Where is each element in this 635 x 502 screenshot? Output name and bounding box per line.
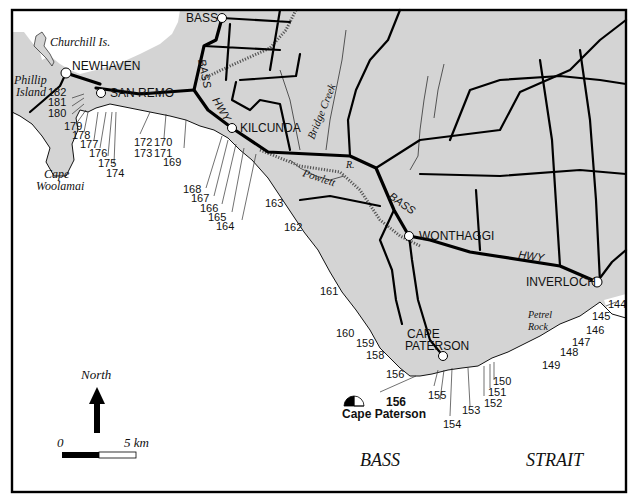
svg-text:173: 173 (134, 147, 152, 159)
svg-text:161: 161 (320, 285, 338, 297)
svg-text:153: 153 (462, 404, 480, 416)
feature-churchill-island: Churchill Is. (50, 35, 110, 49)
sea-label-strait: STRAIT (526, 450, 585, 470)
svg-text:149: 149 (542, 359, 560, 371)
svg-text:179: 179 (64, 120, 82, 132)
sea-label-bass: BASS (360, 450, 400, 470)
town-label-san-remo: SAN REMO (110, 86, 174, 100)
north-label: North (80, 367, 111, 382)
svg-text:171: 171 (154, 147, 172, 159)
svg-text:144: 144 (608, 298, 626, 310)
town-label-wonthaggi: WONTHAGGI (419, 229, 494, 243)
svg-text:148: 148 (560, 346, 578, 358)
town-label-kilcunda: KILCUNDA (240, 121, 301, 135)
svg-text:168: 168 (183, 183, 201, 195)
svg-text:152: 152 (484, 397, 502, 409)
town-label-bass: BASS (186, 11, 218, 25)
highlight-site-marker (344, 396, 364, 406)
svg-text:145: 145 (592, 310, 610, 322)
town-label-newhaven: NEWHAVEN (72, 59, 140, 73)
svg-text:146: 146 (586, 324, 604, 336)
map-canvas: BASS NEWHAVEN SAN REMO KILCUNDA WONTHAGG… (0, 0, 635, 502)
svg-text:160: 160 (336, 327, 354, 339)
north-arrow-icon (89, 387, 105, 433)
feature-island: Island (15, 85, 47, 99)
town-label-inverloch: INVERLOCH (526, 275, 596, 289)
feature-powlett-r: R. (345, 159, 355, 170)
feature-petrel: Petrel (527, 309, 552, 320)
svg-text:154: 154 (443, 418, 461, 430)
scale-start-label: 0 (57, 435, 64, 450)
feature-woolamai: Woolamai (36, 179, 84, 193)
highlight-site-name: Cape Paterson (342, 407, 426, 421)
svg-text:158: 158 (366, 349, 384, 361)
scale-bar (62, 452, 136, 458)
svg-text:163: 163 (265, 197, 283, 209)
svg-text:182: 182 (48, 86, 66, 98)
town-label-paterson: PATERSON (405, 339, 469, 353)
svg-text:180: 180 (48, 107, 66, 119)
scale-end-label: 5 km (124, 435, 149, 450)
svg-text:159: 159 (356, 337, 374, 349)
svg-text:155: 155 (428, 389, 446, 401)
svg-text:162: 162 (284, 221, 302, 233)
feature-rock: Rock (527, 321, 549, 332)
